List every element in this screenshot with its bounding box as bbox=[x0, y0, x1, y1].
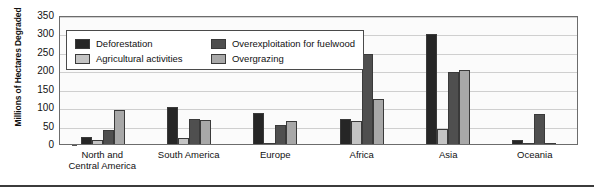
x-category-label-line: North and bbox=[59, 149, 146, 160]
bar bbox=[426, 34, 437, 144]
bar bbox=[437, 129, 448, 144]
y-tick-label: 150 bbox=[18, 85, 54, 95]
bar bbox=[534, 114, 545, 144]
bar-group bbox=[491, 17, 577, 144]
x-category-label-line: South America bbox=[146, 149, 233, 160]
bar bbox=[253, 113, 264, 144]
legend-item-label: Agricultural activities bbox=[96, 53, 183, 64]
bar bbox=[286, 121, 297, 144]
bar bbox=[448, 72, 459, 144]
legend-item-label: Overexploitation for fuelwood bbox=[232, 38, 355, 49]
bar bbox=[275, 125, 286, 144]
legend-item-label: Overgrazing bbox=[232, 53, 284, 64]
y-tick-label: 350 bbox=[18, 11, 54, 21]
bar-group bbox=[405, 17, 491, 144]
chart-legend: DeforestationOverexploitation for fuelwo… bbox=[66, 30, 364, 70]
legend-item: Overgrazing bbox=[211, 53, 355, 64]
bar bbox=[81, 137, 92, 144]
y-tick-label: 250 bbox=[18, 48, 54, 58]
bar bbox=[264, 143, 275, 144]
bar bbox=[178, 138, 189, 144]
bar bbox=[459, 70, 470, 144]
bar bbox=[92, 140, 103, 144]
x-category-label: Oceania bbox=[492, 149, 579, 181]
legend-item-label: Deforestation bbox=[96, 38, 153, 49]
legend-item: Deforestation bbox=[75, 38, 209, 49]
bar bbox=[351, 121, 362, 144]
bar bbox=[103, 130, 114, 144]
x-category-label-line: Europe bbox=[232, 149, 319, 160]
legend-swatch-overexploitation bbox=[211, 39, 226, 49]
legend-item: Agricultural activities bbox=[75, 53, 209, 64]
y-tick-label: 0 bbox=[18, 140, 54, 150]
bar bbox=[373, 99, 384, 144]
legend-swatch-deforestation bbox=[75, 39, 90, 49]
x-category-label: Asia bbox=[405, 149, 492, 181]
x-category-label-line: Oceania bbox=[492, 149, 579, 160]
legend-swatch-agricultural bbox=[75, 54, 90, 64]
y-tick-label: 200 bbox=[18, 66, 54, 76]
bar bbox=[545, 143, 556, 144]
x-category-label: South America bbox=[146, 149, 233, 181]
x-category-label: Africa bbox=[319, 149, 406, 181]
bar bbox=[340, 119, 351, 144]
x-category-label: Europe bbox=[232, 149, 319, 181]
bar bbox=[189, 119, 200, 144]
y-tick-label: 300 bbox=[18, 29, 54, 39]
y-tick-label: 50 bbox=[18, 122, 54, 132]
x-category-label-line: Africa bbox=[319, 149, 406, 160]
y-axis-tick-labels: 350300250200150100500 bbox=[18, 10, 54, 150]
legend-swatch-overgrazing bbox=[211, 54, 226, 64]
x-category-label-line: Asia bbox=[405, 149, 492, 160]
bar bbox=[512, 140, 523, 144]
y-tick-mark bbox=[72, 145, 77, 146]
y-tick-label: 100 bbox=[18, 103, 54, 113]
bar bbox=[114, 110, 125, 144]
bar bbox=[200, 120, 211, 144]
x-category-label-line: Central America bbox=[59, 160, 146, 171]
bar bbox=[523, 143, 534, 144]
x-axis-category-labels: North andCentral AmericaSouth AmericaEur… bbox=[59, 149, 578, 181]
bar bbox=[167, 107, 178, 144]
x-category-label: North andCentral America bbox=[59, 149, 146, 181]
chart-figure: Millions of Hectares Degraded 3503002502… bbox=[0, 0, 594, 187]
legend-item: Overexploitation for fuelwood bbox=[211, 38, 355, 49]
